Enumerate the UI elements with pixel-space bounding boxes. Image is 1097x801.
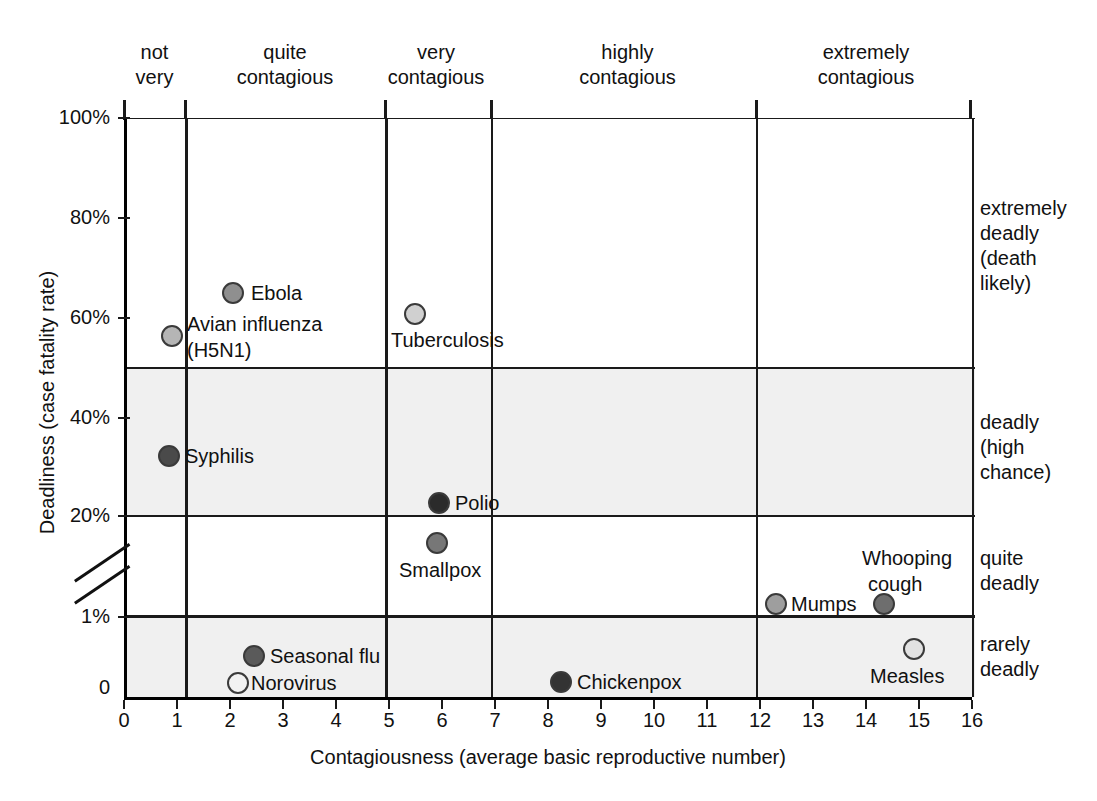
y-tick-60 [118, 317, 130, 319]
right-label-quite-deadly: quitedeadly [980, 546, 1095, 596]
top-category-line2: contagious [760, 65, 972, 90]
x-tick-label-11: 11 [687, 708, 727, 732]
top-category-line2: very [124, 65, 185, 90]
plot-area: Ebola Avian influenza (H5N1) Tuberculosi… [124, 118, 972, 700]
y-axis-title: Deadliness (case fatality rate) [36, 123, 59, 683]
top-category-line2: contagious [495, 65, 760, 90]
data-point-whooping-cough[interactable] [873, 593, 895, 615]
right-label-line: extremely [980, 196, 1095, 221]
gridline-100-percent [127, 118, 975, 119]
data-label-polio: Polio [455, 491, 499, 515]
data-point-seasonal-flu[interactable] [243, 645, 265, 667]
x-tick-label-6: 6 [422, 708, 462, 732]
right-label-line: deadly [980, 221, 1095, 246]
data-label-syphilis: Syphilis [185, 444, 254, 468]
data-point-ebola[interactable] [222, 282, 244, 304]
data-point-norovirus[interactable] [227, 672, 249, 694]
x-tick-label-9: 9 [581, 708, 621, 732]
right-label-line: (death [980, 246, 1095, 271]
y-tick-20 [118, 515, 130, 517]
top-divider-tick-7 [490, 100, 493, 120]
y-tick-1 [118, 616, 130, 618]
x-tick-label-13: 13 [793, 708, 833, 732]
data-label-tuberculosis: Tuberculosis [391, 328, 504, 352]
x-tick-label-7: 7 [475, 708, 515, 732]
top-category-not-very: not very [124, 40, 185, 90]
top-divider-tick-12 [755, 100, 758, 120]
y-tick-100 [118, 117, 130, 119]
top-divider-tick-5 [384, 100, 387, 120]
right-label-line: deadly [980, 571, 1095, 596]
data-label-ebola: Ebola [251, 281, 302, 305]
y-tick-80 [118, 217, 130, 219]
data-point-measles[interactable] [903, 638, 925, 660]
data-label-avian-influenza-line2: (H5N1) [187, 338, 251, 362]
divider-x-16 [972, 118, 974, 697]
right-label-line: deadly [980, 410, 1095, 435]
x-tick-label-10: 10 [634, 708, 674, 732]
x-tick-label-5: 5 [369, 708, 409, 732]
x-tick-label-2: 2 [210, 708, 250, 732]
data-label-smallpox: Smallpox [399, 558, 481, 582]
data-label-whooping-cough-line2: cough [868, 572, 923, 596]
data-point-tuberculosis[interactable] [404, 303, 426, 325]
chart-canvas: not very quite contagious very contagiou… [0, 0, 1097, 801]
x-tick-label-1: 1 [157, 708, 197, 732]
top-category-extremely-contagious: extremely contagious [760, 40, 972, 90]
top-category-line1: extremely [760, 40, 972, 65]
divider-x-7 [491, 118, 493, 697]
divider-x-12 [756, 118, 758, 697]
right-label-line: deadly [980, 657, 1095, 682]
data-label-avian-influenza-line1: Avian influenza [187, 312, 322, 336]
top-divider-tick-16 [969, 100, 972, 120]
x-tick-label-3: 3 [263, 708, 303, 732]
x-tick-label-12: 12 [740, 708, 780, 732]
right-label-rarely-deadly: rarelydeadly [980, 632, 1095, 682]
x-tick-label-4: 4 [316, 708, 356, 732]
divider-x-5 [385, 118, 388, 697]
top-category-highly-contagious: highly contagious [495, 40, 760, 90]
x-tick-label-15: 15 [899, 708, 939, 732]
gridline-20-percent [127, 515, 975, 517]
right-label-line: likely) [980, 271, 1095, 296]
x-axis-title: Contagiousness (average basic reproducti… [124, 746, 972, 769]
axis-break-mark [74, 540, 144, 602]
axis-break-slash-1 [74, 543, 130, 582]
data-point-mumps[interactable] [765, 593, 787, 615]
top-category-line1: not [124, 40, 185, 65]
top-category-line1: highly [495, 40, 760, 65]
x-tick-label-0: 0 [104, 708, 144, 732]
right-label-line: rarely [980, 632, 1095, 657]
right-label-line: (high [980, 435, 1095, 460]
data-label-seasonal-flu: Seasonal flu [270, 644, 380, 668]
data-label-norovirus: Norovirus [251, 671, 337, 695]
data-point-polio[interactable] [428, 492, 450, 514]
data-label-mumps: Mumps [791, 592, 857, 616]
data-label-chickenpox: Chickenpox [577, 670, 682, 694]
shaded-band-deadly [127, 368, 975, 515]
data-point-chickenpox[interactable] [550, 671, 572, 693]
right-label-extremely-deadly: extremelydeadly(deathlikely) [980, 196, 1095, 296]
data-label-measles: Measles [870, 664, 944, 688]
data-point-syphilis[interactable] [158, 445, 180, 467]
right-label-deadly: deadly(highchance) [980, 410, 1095, 485]
data-point-smallpox[interactable] [426, 532, 448, 554]
right-label-line: quite [980, 546, 1095, 571]
x-tick-label-16: 16 [952, 708, 992, 732]
divider-x-1 [185, 118, 188, 697]
x-tick-label-8: 8 [528, 708, 568, 732]
gridline-50-percent [127, 367, 975, 369]
right-label-line: chance) [980, 460, 1095, 485]
y-tick-40 [118, 417, 130, 419]
x-tick-label-14: 14 [846, 708, 886, 732]
top-divider-tick-1 [184, 100, 187, 120]
data-point-avian-influenza[interactable] [161, 325, 183, 347]
axis-break-slash-2 [74, 565, 130, 604]
data-label-whooping-cough-line1: Whooping [862, 546, 952, 570]
